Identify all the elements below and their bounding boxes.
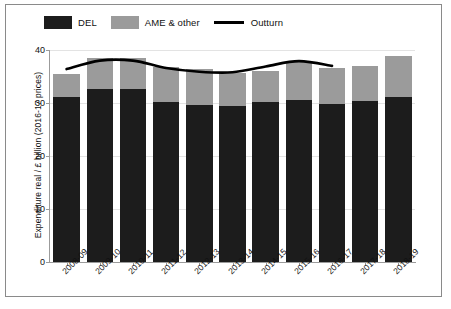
legend-item-ame: AME & other <box>111 16 200 29</box>
plot-area: 010203040 <box>50 50 415 262</box>
chart-legend: DEL AME & other Outturn <box>44 14 297 30</box>
outturn-line <box>50 50 415 262</box>
legend-label-outturn: Outturn <box>251 17 283 28</box>
y-tick-mark <box>46 262 50 263</box>
y-tick-label: 10 <box>35 204 45 214</box>
legend-line-outturn-icon <box>214 21 244 24</box>
legend-label-del: DEL <box>78 17 97 28</box>
legend-swatch-del-icon <box>44 16 72 29</box>
y-tick-label: 30 <box>35 98 45 108</box>
y-tick-label: 20 <box>35 151 45 161</box>
y-tick-label: 40 <box>35 45 45 55</box>
stacked-bar-chart: DEL AME & other Outturn Expenditure real… <box>0 0 451 309</box>
legend-item-outturn: Outturn <box>214 17 283 28</box>
outturn-line-path <box>67 60 332 73</box>
legend-label-ame: AME & other <box>145 17 200 28</box>
legend-item-del: DEL <box>44 16 97 29</box>
legend-swatch-ame-icon <box>111 16 139 29</box>
y-tick-label: 0 <box>40 257 45 267</box>
